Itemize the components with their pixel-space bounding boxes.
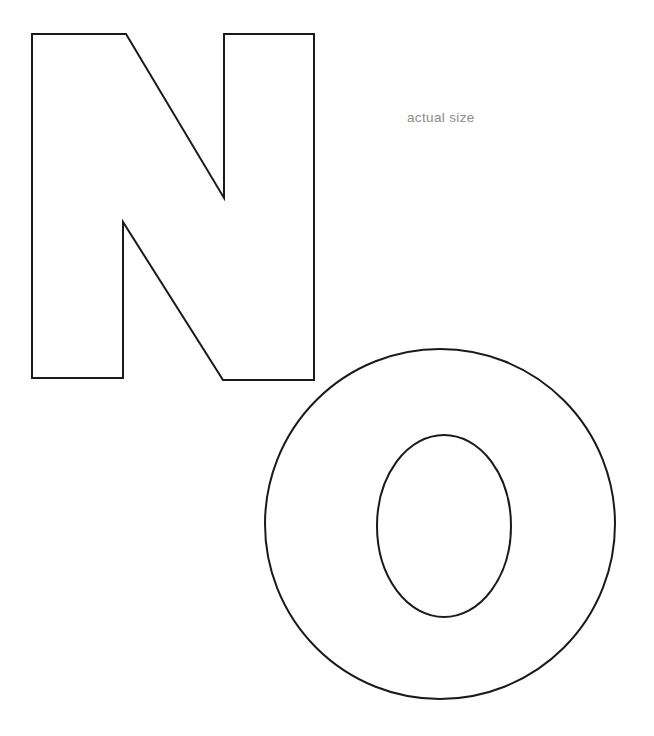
page-canvas: actual size — [0, 0, 654, 736]
letter-o-inner-ellipse — [377, 435, 511, 617]
actual-size-caption: actual size — [407, 111, 475, 125]
letter-artboard — [0, 0, 654, 736]
letter-o-outline — [265, 349, 615, 699]
